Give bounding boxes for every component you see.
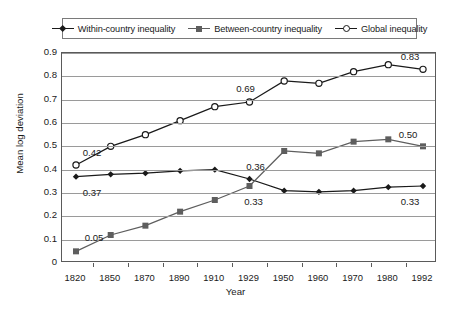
data-point (142, 132, 148, 138)
x-axis-tick-label: 1970 (342, 272, 363, 283)
x-axis-tick-label: 1870 (134, 272, 155, 283)
x-axis-tick-mark (406, 263, 407, 267)
data-label: 0.33 (244, 196, 263, 207)
data-point (281, 78, 287, 84)
data-point (281, 148, 287, 154)
diamond-marker-icon (52, 24, 74, 33)
data-label: 0.42 (83, 147, 102, 158)
data-point (246, 176, 252, 182)
legend-label: Between-country inequality (214, 24, 322, 34)
x-axis-tick-label: 1950 (273, 272, 294, 283)
x-axis-tick-label: 1850 (99, 272, 120, 283)
data-point (316, 189, 322, 195)
y-axis-title: Mean log deviation (14, 69, 25, 199)
x-axis-tick-label: 1820 (65, 272, 86, 283)
data-point (351, 139, 357, 145)
data-point (385, 62, 391, 68)
x-axis-tick-label: 1980 (377, 272, 398, 283)
data-label: 0.05 (85, 232, 104, 243)
data-point (73, 162, 79, 168)
data-point (142, 223, 148, 229)
data-point (73, 173, 79, 179)
legend-label: Within-country inequality (78, 24, 176, 34)
data-point (73, 248, 79, 254)
data-point (212, 104, 218, 110)
data-point (108, 171, 114, 177)
data-point (247, 183, 253, 189)
data-label: 0.50 (399, 129, 418, 140)
legend-item-global: Global inequality (335, 24, 427, 34)
legend-label: Global inequality (361, 24, 427, 34)
x-axis-tick-label: 1960 (307, 272, 328, 283)
y-axis-tick-label: 0.1 (17, 234, 57, 244)
circle-marker-icon (335, 24, 357, 33)
data-label: 0.69 (236, 83, 255, 94)
square-marker-icon (188, 24, 210, 33)
data-point (177, 209, 183, 215)
data-point (351, 69, 357, 75)
data-label: 0.83 (401, 51, 420, 62)
data-point (316, 80, 322, 86)
gridline (62, 216, 435, 217)
gridline (62, 146, 435, 147)
gridline (62, 123, 435, 124)
data-point (385, 136, 391, 142)
x-axis-tick-label: 1992 (412, 272, 433, 283)
series-line (76, 65, 423, 165)
data-point (212, 197, 218, 203)
data-label: 0.33 (401, 196, 420, 207)
data-label: 0.36 (246, 161, 265, 172)
plot-area: 0.420.370.050.690.360.330.830.500.33 (61, 52, 436, 262)
chart-legend: Within-country inequality Between-countr… (62, 18, 417, 39)
x-axis-tick-mark (267, 263, 268, 267)
data-point (420, 66, 426, 72)
chart-container: Within-country inequality Between-countr… (0, 0, 471, 312)
x-axis-tick-label: 1929 (238, 272, 259, 283)
data-point (385, 184, 391, 190)
legend-item-within-country: Within-country inequality (52, 24, 176, 34)
gridline (62, 100, 435, 101)
x-axis-tick-mark (336, 263, 337, 267)
gridline (62, 240, 435, 241)
gridline (62, 76, 435, 77)
x-axis-tick-mark (302, 263, 303, 267)
x-axis-tick-label: 1890 (169, 272, 190, 283)
x-axis-ticks: 1820185018701890191019291950196019701980… (61, 268, 436, 282)
legend-item-between-country: Between-country inequality (188, 24, 322, 34)
y-axis-tick-label: 0 (17, 257, 57, 267)
x-axis-tick-mark (93, 263, 94, 267)
x-axis-tick-mark (163, 263, 164, 267)
y-axis-tick-label: 0.9 (17, 47, 57, 57)
data-label: 0.37 (83, 186, 102, 197)
series-global-inequality (73, 62, 426, 169)
data-point (177, 168, 183, 174)
x-axis-title: Year (0, 286, 471, 297)
x-axis-tick-label: 1910 (203, 272, 224, 283)
gridline (62, 53, 435, 54)
y-axis-tick-label: 0.2 (17, 210, 57, 220)
data-point (316, 150, 322, 156)
data-point (142, 170, 148, 176)
gridline (62, 193, 435, 194)
data-point (420, 183, 426, 189)
x-axis-tick-mark (371, 263, 372, 267)
x-axis-tick-mark (128, 263, 129, 267)
x-axis-tick-mark (197, 263, 198, 267)
data-point (108, 232, 114, 238)
x-axis-tick-mark (232, 263, 233, 267)
